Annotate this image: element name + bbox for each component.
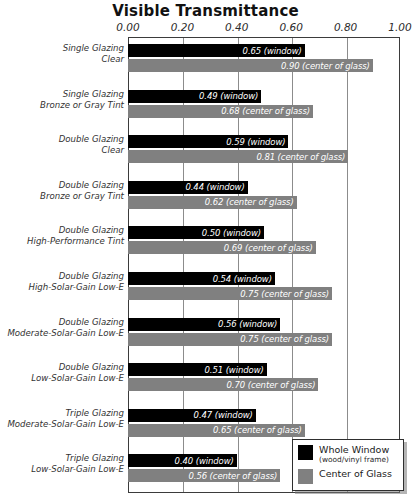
category-label-line: Triple Glazing <box>0 453 124 464</box>
legend-sublabel-whole-window: (wood/vinyl frame) <box>319 456 389 465</box>
category-label-line: Clear <box>0 145 124 156</box>
category-label-line: Single Glazing <box>0 43 124 54</box>
bar-whole-window: 0.51 (window) <box>128 363 267 376</box>
legend-item-whole-window: Whole Window (wood/vinyl frame) <box>298 445 389 464</box>
legend-swatch-center-of-glass <box>298 469 313 484</box>
bar-value-label: 0.51 (window) <box>205 365 264 375</box>
category-label: Double GlazingClear <box>0 134 124 156</box>
category-label-line: Single Glazing <box>0 89 124 100</box>
bars-layer: 0.65 (window)0.90 (center of glass)0.49 … <box>128 37 400 493</box>
category-label: Double GlazingModerate-Solar-Gain Low-E <box>0 317 124 339</box>
bar-value-label: 0.40 (window) <box>175 456 234 466</box>
x-tick-label: 0.80 <box>334 21 357 33</box>
x-tick-label: 0.60 <box>279 21 302 33</box>
bar-value-label: 0.56 (window) <box>218 319 277 329</box>
bar-row-group: 0.65 (window)0.90 (center of glass) <box>128 44 400 90</box>
bar-value-label: 0.68 (center of glass) <box>221 106 310 116</box>
bar-center-of-glass: 0.75 (center of glass) <box>128 287 332 300</box>
category-label-line: High-Solar-Gain Low-E <box>0 282 124 293</box>
bar-row-group: 0.51 (window)0.70 (center of glass) <box>128 363 400 409</box>
legend-item-center-of-glass: Center of Glass <box>298 469 392 484</box>
bar-whole-window: 0.59 (window) <box>128 135 288 148</box>
bar-whole-window: 0.40 (window) <box>128 454 237 467</box>
category-label-line: Double Glazing <box>0 317 124 328</box>
category-label-line: Low-Solar-Gain Low-E <box>0 373 124 384</box>
category-label-line: High-Performance Tint <box>0 236 124 247</box>
bar-whole-window: 0.50 (window) <box>128 226 264 239</box>
bar-center-of-glass: 0.75 (center of glass) <box>128 333 332 346</box>
category-label: Double GlazingHigh-Solar-Gain Low-E <box>0 271 124 293</box>
bar-whole-window: 0.54 (window) <box>128 272 275 285</box>
bar-row-group: 0.50 (window)0.69 (center of glass) <box>128 226 400 272</box>
bar-whole-window: 0.44 (window) <box>128 181 248 194</box>
bar-value-label: 0.47 (window) <box>194 410 253 420</box>
bar-center-of-glass: 0.69 (center of glass) <box>128 241 316 254</box>
bar-value-label: 0.90 (center of glass) <box>281 61 370 71</box>
bar-center-of-glass: 0.56 (center of glass) <box>128 469 280 482</box>
bar-value-label: 0.65 (window) <box>243 46 302 56</box>
bar-value-label: 0.54 (window) <box>213 274 272 284</box>
legend-swatch-whole-window <box>298 445 313 460</box>
bar-value-label: 0.65 (center of glass) <box>213 425 302 435</box>
bar-value-label: 0.44 (window) <box>185 182 244 192</box>
bar-value-label: 0.75 (center of glass) <box>240 334 329 344</box>
bar-value-label: 0.49 (window) <box>199 91 258 101</box>
bar-center-of-glass: 0.90 (center of glass) <box>128 59 373 72</box>
bar-value-label: 0.81 (center of glass) <box>256 152 345 162</box>
legend-label-center-of-glass-text: Center of Glass <box>319 468 392 479</box>
category-label: Double GlazingBronze or Gray Tint <box>0 180 124 202</box>
bar-row-group: 0.49 (window)0.68 (center of glass) <box>128 90 400 136</box>
bar-center-of-glass: 0.65 (center of glass) <box>128 424 305 437</box>
bar-whole-window: 0.47 (window) <box>128 409 256 422</box>
bar-value-label: 0.56 (center of glass) <box>188 471 277 481</box>
x-tick-label: 0.40 <box>225 21 248 33</box>
category-label-line: Moderate-Solar-Gain Low-E <box>0 328 124 339</box>
bar-row-group: 0.56 (window)0.75 (center of glass) <box>128 318 400 364</box>
category-label: Double GlazingHigh-Performance Tint <box>0 225 124 247</box>
bar-value-label: 0.59 (window) <box>226 137 285 147</box>
chart-title: Visible Transmittance <box>0 2 411 20</box>
y-axis-category-labels: Single GlazingClearSingle GlazingBronze … <box>0 37 124 493</box>
x-tick-label: 1.00 <box>388 21 411 33</box>
x-tick-label: 0.00 <box>116 21 139 33</box>
bar-whole-window: 0.56 (window) <box>128 318 280 331</box>
category-label-line: Double Glazing <box>0 180 124 191</box>
bar-row-group: 0.59 (window)0.81 (center of glass) <box>128 135 400 181</box>
bar-row-group: 0.44 (window)0.62 (center of glass) <box>128 181 400 227</box>
bar-value-label: 0.70 (center of glass) <box>227 380 316 390</box>
bar-value-label: 0.62 (center of glass) <box>205 197 294 207</box>
bar-center-of-glass: 0.81 (center of glass) <box>128 150 348 163</box>
category-label-line: Bronze or Gray Tint <box>0 191 124 202</box>
chart-legend: Whole Window (wood/vinyl frame) Center o… <box>292 439 404 491</box>
category-label: Triple GlazingLow-Solar-Gain Low-E <box>0 453 124 475</box>
bar-whole-window: 0.49 (window) <box>128 90 261 103</box>
bar-center-of-glass: 0.70 (center of glass) <box>128 378 318 391</box>
bar-center-of-glass: 0.62 (center of glass) <box>128 196 297 209</box>
bar-row-group: 0.54 (window)0.75 (center of glass) <box>128 272 400 318</box>
category-label: Triple GlazingModerate-Solar-Gain Low-E <box>0 408 124 430</box>
category-label-line: Triple Glazing <box>0 408 124 419</box>
category-label: Single GlazingBronze or Gray Tint <box>0 89 124 111</box>
x-axis-tick-labels: 0.000.200.400.600.801.00 <box>0 21 411 35</box>
bar-whole-window: 0.65 (window) <box>128 44 305 57</box>
category-label-line: Double Glazing <box>0 271 124 282</box>
bar-value-label: 0.75 (center of glass) <box>240 289 329 299</box>
bar-value-label: 0.69 (center of glass) <box>224 243 313 253</box>
legend-label-center-of-glass: Center of Glass <box>319 469 392 480</box>
bar-value-label: 0.50 (window) <box>202 228 261 238</box>
category-label-line: Clear <box>0 54 124 65</box>
category-label: Single GlazingClear <box>0 43 124 65</box>
x-tick-label: 0.20 <box>171 21 194 33</box>
category-label-line: Bronze or Gray Tint <box>0 100 124 111</box>
category-label-line: Double Glazing <box>0 225 124 236</box>
category-label-line: Double Glazing <box>0 362 124 373</box>
legend-label-whole-window: Whole Window (wood/vinyl frame) <box>319 445 389 464</box>
bar-center-of-glass: 0.68 (center of glass) <box>128 105 313 118</box>
category-label-line: Double Glazing <box>0 134 124 145</box>
category-label-line: Moderate-Solar-Gain Low-E <box>0 419 124 430</box>
category-label: Double GlazingLow-Solar-Gain Low-E <box>0 362 124 384</box>
legend-label-whole-window-text: Whole Window <box>319 444 389 455</box>
category-label-line: Low-Solar-Gain Low-E <box>0 464 124 475</box>
